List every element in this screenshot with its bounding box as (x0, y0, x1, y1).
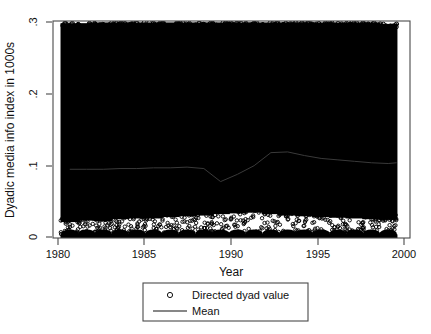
dyad-column-dense (345, 22, 363, 218)
legend-label-mean: Mean (192, 305, 220, 317)
dyad-column-dense (128, 22, 146, 218)
y-tick-label-2: .2 (27, 89, 39, 98)
dyad-column-dense (379, 24, 397, 220)
dyad-column-dense (312, 22, 330, 217)
dyad-column-dense (362, 22, 380, 219)
dyad-column-dense (245, 22, 263, 212)
dyad-column-dense (295, 22, 313, 216)
chart-figure: Dyadic media info index in 1000s .3 .2 .… (0, 0, 431, 334)
dyad-column-dense (262, 22, 280, 214)
x-tick-label-1995: 1995 (306, 248, 330, 260)
scatter-points-layer (59, 20, 399, 241)
dyad-column-dense (144, 22, 162, 218)
dyad-column-dense (161, 22, 179, 217)
dyad-column-dense (195, 22, 213, 215)
scatter-chart: Dyadic media info index in 1000s .3 .2 .… (0, 0, 431, 334)
dyad-column-dense (228, 22, 246, 213)
legend-label-directed-dyad-value: Directed dyad value (192, 289, 289, 301)
x-tick-label-1980: 1980 (46, 248, 70, 260)
x-tick-label-1990: 1990 (219, 248, 243, 260)
x-axis-title: Year (219, 265, 243, 279)
dyad-column-dense (278, 22, 296, 215)
y-tick-label-1: .1 (27, 161, 39, 170)
x-tick-label-2000: 2000 (392, 248, 416, 260)
y-axis-title: Dyadic media info index in 1000s (3, 42, 17, 218)
dyad-column-dense (61, 23, 79, 222)
dyad-column-dense (111, 22, 129, 219)
dyad-column-dense (178, 22, 196, 216)
dyad-column-dense (77, 23, 95, 220)
y-tick-label-0: 0 (27, 234, 39, 240)
dyad-column-dense (329, 22, 347, 217)
chart-legend: Directed dyad value Mean (143, 283, 308, 321)
dyad-column-dense (94, 22, 112, 221)
y-tick-label-3: .3 (27, 17, 39, 26)
dyad-column-dense (211, 22, 229, 214)
x-tick-label-1985: 1985 (132, 248, 156, 260)
